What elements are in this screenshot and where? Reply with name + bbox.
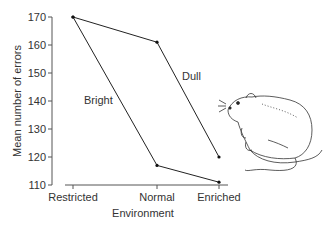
- line-chart: 110120130140150160170 RestrictedNormalEn…: [0, 0, 329, 226]
- data-point: [217, 155, 220, 158]
- x-tick-label: Normal: [139, 191, 174, 203]
- x-axis-label: Environment: [112, 207, 174, 219]
- data-point: [217, 181, 220, 184]
- y-tick-label: 120: [28, 151, 46, 163]
- y-tick-label: 110: [28, 179, 46, 191]
- data-point: [71, 15, 74, 18]
- y-tick-label: 170: [28, 11, 46, 23]
- y-tick-label: 130: [28, 123, 46, 135]
- data-point: [155, 41, 158, 44]
- x-tick-label: Restricted: [48, 191, 98, 203]
- rat-illustration-icon: [218, 94, 322, 171]
- series-label-bright: Bright: [84, 94, 113, 106]
- x-ticks: RestrictedNormalEnriched: [48, 185, 240, 203]
- y-ticks: 110120130140150160170: [28, 11, 52, 191]
- y-tick-label: 150: [28, 67, 46, 79]
- y-tick-label: 160: [28, 39, 46, 51]
- y-axis-label: Mean number of errors: [11, 45, 23, 157]
- data-point: [155, 164, 158, 167]
- y-tick-label: 140: [28, 95, 46, 107]
- series-label-dull: Dull: [182, 70, 201, 82]
- x-tick-label: Enriched: [197, 191, 240, 203]
- series-line-dull: [73, 17, 219, 157]
